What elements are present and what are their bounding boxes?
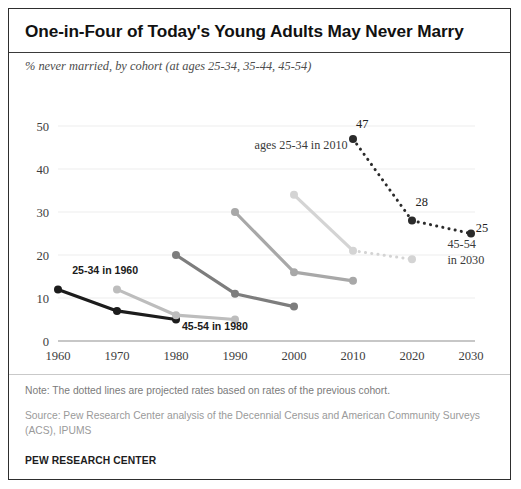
data-series-group (54, 135, 475, 324)
chart-figure: One-in-Four of Today's Young Adults May … (8, 8, 511, 480)
data-point-cohort-1960-1960 (54, 285, 62, 293)
plot-area: 01020304050 1960197019801990200020102020… (9, 81, 510, 373)
page-title: One-in-Four of Today's Young Adults May … (25, 21, 495, 42)
data-point-cohort-1980-1980 (172, 251, 180, 259)
data-point-cohort-1980-1990 (231, 290, 239, 298)
x-tick-label-2030: 2030 (458, 349, 483, 363)
series-segment-cohort-1960-1960 (58, 289, 117, 311)
label-ages-25-34-in-2010: ages 25-34 in 2010 (255, 138, 348, 152)
footer: Note: The dotted lines are projected rat… (9, 375, 510, 480)
series-segment-cohort-1980-1990 (235, 294, 294, 307)
data-point-cohort-2000-2000 (290, 191, 298, 199)
label-45-54-in-1980: 45-54 in 1980 (182, 320, 248, 332)
series-segment-cohort-1990-2000 (294, 272, 353, 281)
series-cohort-1970 (113, 285, 239, 323)
x-tick-label-1970: 1970 (104, 349, 129, 363)
series-segment-cohort-2010-2010 (353, 139, 412, 221)
x-tick-label-1980: 1980 (163, 349, 188, 363)
y-tick-label-40: 40 (36, 163, 49, 177)
x-tick-label-1960: 1960 (45, 349, 70, 363)
y-tick-label-0: 0 (43, 335, 49, 349)
y-axis-ticks-group: 01020304050 (36, 120, 49, 349)
data-point-cohort-2010-2010 (349, 135, 357, 143)
y-tick-label-20: 20 (36, 249, 49, 263)
data-point-cohort-1990-2010 (349, 277, 357, 285)
brand-label: PEW RESEARCH CENTER (25, 455, 156, 466)
series-cohort-1980 (172, 251, 298, 311)
x-tick-label-1990: 1990 (222, 349, 247, 363)
chart-subtitle: % never married, by cohort (at ages 25-3… (25, 59, 495, 74)
title-divider (9, 52, 510, 53)
value-label-47: 47 (356, 117, 368, 131)
data-point-cohort-2000-2020 (408, 255, 416, 263)
label-25-34-in-1960: 25-34 in 1960 (72, 264, 138, 276)
series-segment-cohort-1980-1980 (176, 255, 235, 294)
y-tick-label-30: 30 (36, 206, 49, 220)
y-tick-label-50: 50 (36, 120, 49, 134)
data-point-cohort-2000-2010 (349, 247, 357, 255)
data-point-cohort-1960-1970 (113, 307, 121, 315)
x-tick-label-2020: 2020 (399, 349, 424, 363)
data-point-cohort-1970-1980 (172, 311, 180, 319)
x-tick-label-2010: 2010 (340, 349, 365, 363)
x-tick-label-2000: 2000 (281, 349, 306, 363)
value-label-25: 25 (476, 221, 488, 235)
label-45-54-in-2030-line2: in 2030 (447, 253, 484, 267)
series-segment-cohort-1990-1990 (235, 212, 294, 272)
chart-note: Note: The dotted lines are projected rat… (25, 385, 495, 396)
data-point-cohort-1980-2000 (290, 303, 298, 311)
series-segment-cohort-2000-2000 (294, 195, 353, 251)
gridlines-group (58, 126, 475, 341)
y-tick-label-10: 10 (36, 292, 49, 306)
data-point-cohort-1990-1990 (231, 208, 239, 216)
data-point-cohort-1970-1970 (113, 285, 121, 293)
series-cohort-1990 (231, 208, 357, 285)
series-cohort-2010 (349, 135, 475, 238)
x-axis-ticks-group: 19601970198019902000201020202030 (45, 349, 483, 363)
value-label-28: 28 (416, 195, 428, 209)
label-45-54-in-2030-line1: 45-54 (447, 237, 475, 251)
series-segment-cohort-2010-2020 (412, 221, 471, 234)
chart-source: Source: Pew Research Center analysis of … (25, 409, 487, 438)
data-point-cohort-1990-2000 (290, 268, 298, 276)
data-point-cohort-2010-2020 (408, 217, 416, 225)
line-chart-svg: 01020304050 1960197019801990200020102020… (9, 81, 510, 373)
annotations-group: 25-34 in 196045-54 in 1980ages 25-34 in … (72, 117, 488, 332)
